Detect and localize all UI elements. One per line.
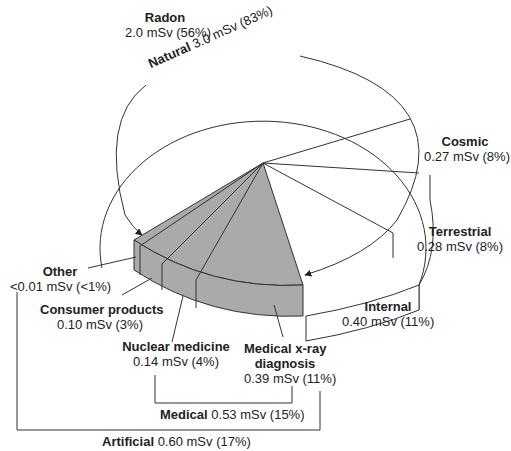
label-artificial: Artificial 0.60 mSv (17%) xyxy=(102,434,251,449)
label-internal: Internal 0.40 mSv (11%) xyxy=(342,299,434,329)
label-terrestrial: Terrestrial 0.28 mSv (8%) xyxy=(414,224,506,254)
consumer-leader xyxy=(122,278,152,295)
label-consumer: Consumer products 0.10 mSv (3%) xyxy=(40,302,160,332)
natural-arrow-arc-right xyxy=(300,56,419,275)
label-medical: Medical 0.53 mSv (15%) xyxy=(160,407,305,422)
label-cosmic: Cosmic 0.27 mSv (8%) xyxy=(424,134,506,164)
label-other: Other <0.01 mSv (<1%) xyxy=(10,264,110,294)
label-xray: Medical x-ray diagnosis 0.39 mSv (11%) xyxy=(244,341,326,386)
cosmic-boundary-1 xyxy=(263,119,410,163)
nuclear-leader xyxy=(172,296,183,342)
natural-arrow-arc xyxy=(116,85,146,235)
cosmic-boundary-2 xyxy=(263,163,419,173)
label-nuclear: Nuclear medicine 0.14 mSv (4%) xyxy=(120,339,232,369)
